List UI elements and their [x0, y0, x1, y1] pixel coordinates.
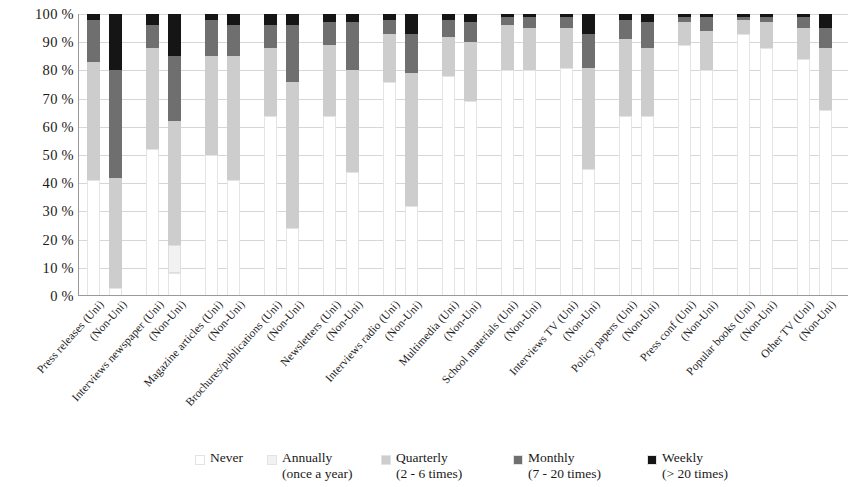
bar-segment-quarterly — [205, 56, 218, 155]
bars-layer — [78, 14, 848, 296]
bar-segment-quarterly — [346, 70, 359, 172]
bar-segment-weekly — [619, 14, 632, 20]
bar-segment-quarterly — [523, 28, 536, 70]
bar-segment-monthly — [501, 17, 514, 25]
bar-segment-monthly — [582, 34, 595, 68]
legend-swatch-icon — [195, 455, 205, 465]
legend-swatch-icon — [513, 455, 523, 465]
bar-segment-quarterly — [501, 25, 514, 70]
bar-segment-monthly — [523, 17, 536, 28]
bar-segment-quarterly — [286, 82, 299, 229]
bar-segment-monthly — [205, 20, 218, 57]
plot-area — [78, 14, 848, 296]
bar-segment-weekly — [797, 14, 810, 17]
bar-column — [560, 14, 573, 296]
bar-column — [523, 14, 536, 296]
legend-label: Weekly — [662, 450, 728, 466]
bar-segment-monthly — [464, 22, 477, 42]
bar-segment-monthly — [323, 22, 336, 45]
bar-segment-never — [346, 172, 359, 296]
legend-swatch-icon — [647, 455, 657, 465]
bar-segment-never — [523, 70, 536, 296]
bar-segment-weekly — [405, 14, 418, 34]
bar-segment-weekly — [819, 14, 832, 28]
bar-segment-never — [227, 180, 240, 296]
y-axis-tick-label: 100 % — [4, 7, 74, 22]
bar-segment-weekly — [700, 14, 713, 17]
chart-legend: NeverAnnually(once a year)Quarterly(2 - … — [195, 450, 715, 486]
y-axis-tick-label: 70 % — [4, 91, 74, 106]
bar-segment-never — [760, 48, 773, 296]
legend-label: Never — [210, 450, 243, 466]
legend-label-wrap: Annually(once a year) — [282, 450, 352, 483]
bar-column — [286, 14, 299, 296]
y-axis-tick-label: 20 % — [4, 232, 74, 247]
bar-column — [678, 14, 691, 296]
bar-segment-quarterly — [323, 45, 336, 116]
bar-segment-never — [383, 82, 396, 296]
bar-column — [346, 14, 359, 296]
bar-segment-weekly — [286, 14, 299, 25]
bar-column — [146, 14, 159, 296]
bar-segment-monthly — [264, 25, 277, 48]
bar-segment-monthly — [87, 20, 100, 62]
legend-swatch-icon — [267, 455, 277, 465]
bar-segment-monthly — [346, 22, 359, 70]
bar-column — [819, 14, 832, 296]
bar-segment-never — [797, 59, 810, 296]
bar-segment-monthly — [168, 56, 181, 121]
legend-label-wrap: Weekly(> 20 times) — [662, 450, 728, 483]
bar-segment-quarterly — [264, 48, 277, 116]
y-axis-tick-label: 30 % — [4, 204, 74, 219]
bar-column — [264, 14, 277, 296]
bar-column — [737, 14, 750, 296]
bar-segment-quarterly — [383, 34, 396, 82]
bar-segment-never — [264, 116, 277, 296]
legend-item-weekly[interactable]: Weekly(> 20 times) — [647, 450, 728, 483]
bar-segment-quarterly — [582, 68, 595, 170]
bar-segment-never — [582, 169, 595, 296]
bar-column — [700, 14, 713, 296]
y-axis-tick-label: 60 % — [4, 120, 74, 135]
legend-item-annually[interactable]: Annually(once a year) — [267, 450, 352, 483]
legend-label-wrap: Monthly(7 - 20 times) — [528, 450, 601, 483]
bar-segment-monthly — [286, 25, 299, 81]
legend-item-monthly[interactable]: Monthly(7 - 20 times) — [513, 450, 601, 483]
bar-segment-never — [464, 101, 477, 296]
bar-column — [323, 14, 336, 296]
bar-segment-weekly — [323, 14, 336, 22]
x-axis-line — [78, 295, 848, 296]
bar-segment-weekly — [560, 14, 573, 17]
bar-segment-quarterly — [442, 37, 455, 76]
bar-segment-monthly — [146, 25, 159, 48]
bar-segment-weekly — [346, 14, 359, 22]
bar-segment-never — [619, 116, 632, 296]
bar-segment-monthly — [819, 28, 832, 48]
bar-segment-weekly — [264, 14, 277, 25]
bar-segment-weekly — [87, 14, 100, 20]
legend-item-never[interactable]: Never — [195, 450, 243, 466]
bar-column — [501, 14, 514, 296]
bar-column — [442, 14, 455, 296]
legend-label: Annually — [282, 450, 352, 466]
bar-column — [227, 14, 240, 296]
bar-segment-annually — [168, 245, 181, 273]
bar-column — [797, 14, 810, 296]
bar-segment-weekly — [641, 14, 654, 22]
bar-segment-weekly — [464, 14, 477, 22]
bar-segment-monthly — [619, 20, 632, 40]
legend-label-wrap: Never — [210, 450, 243, 466]
bar-column — [205, 14, 218, 296]
bar-segment-never — [205, 155, 218, 296]
legend-item-quarterly[interactable]: Quarterly(2 - 6 times) — [381, 450, 462, 483]
bar-segment-quarterly — [700, 31, 713, 70]
bar-segment-monthly — [560, 17, 573, 28]
bar-segment-quarterly — [227, 56, 240, 180]
legend-label: Monthly — [528, 450, 601, 466]
x-axis-labels: Press releases (Uni)(Non-Uni)Interviews … — [0, 298, 857, 410]
y-axis-tick-label: 10 % — [4, 261, 74, 276]
bar-segment-weekly — [227, 14, 240, 25]
bar-segment-quarterly — [146, 48, 159, 150]
bar-segment-monthly — [405, 34, 418, 73]
bar-segment-weekly — [109, 14, 122, 70]
